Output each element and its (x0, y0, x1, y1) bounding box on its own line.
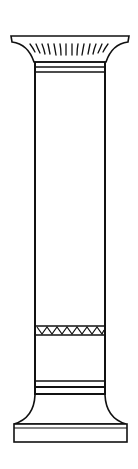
base (14, 381, 127, 442)
shaft (35, 62, 105, 395)
column-drawing (0, 0, 138, 469)
capital (11, 36, 129, 72)
zigzag-band (35, 326, 105, 335)
base-plinth (14, 424, 127, 442)
